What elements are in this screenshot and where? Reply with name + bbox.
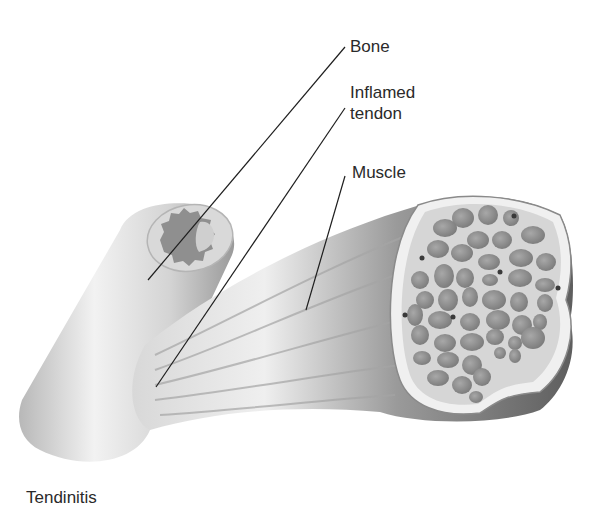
inflamed-tendon-label-line1: Inflamed <box>350 82 415 103</box>
muscle-cross-section <box>390 196 571 414</box>
inflamed-tendon-label-line2: tendon <box>350 103 402 124</box>
muscle-label: Muscle <box>352 162 406 183</box>
bone-label: Bone <box>350 36 390 57</box>
figure-title: Tendinitis <box>26 487 97 507</box>
tendinitis-illustration <box>0 0 609 507</box>
